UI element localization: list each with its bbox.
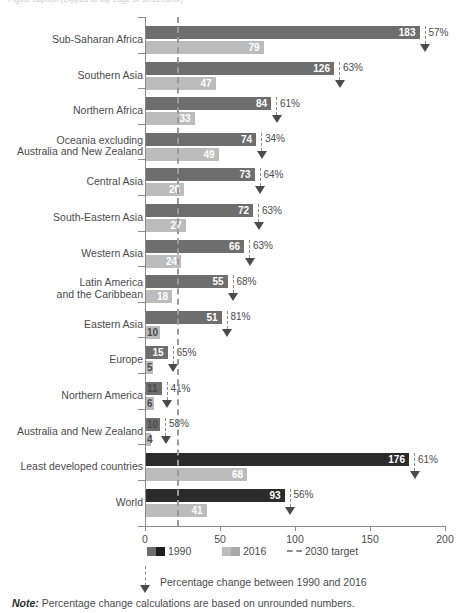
annotation-dashed-line — [414, 453, 415, 471]
category-label: Least developed countries — [20, 461, 143, 473]
percentage-change-label: 68% — [237, 276, 257, 288]
x-axis-tick — [220, 526, 221, 531]
y-axis-line — [145, 17, 146, 526]
category-label: Northern Africa — [73, 105, 143, 117]
annotation-arrow-icon — [228, 293, 238, 301]
axis-tick-stub — [138, 195, 145, 196]
annotation-arrow-icon — [257, 151, 267, 159]
legend-label-2016: 2016 — [243, 545, 266, 557]
annotation-arrow-icon — [410, 471, 420, 479]
bar-value-2016: 5 — [147, 361, 153, 374]
target-line-2030 — [177, 17, 179, 526]
bar-value-1990: 93 — [259, 489, 281, 502]
bar-value-1990: 51 — [196, 311, 218, 324]
axis-tick-stub — [138, 231, 145, 232]
bar-value-1990: 55 — [202, 275, 224, 288]
legend-item-2030-target[interactable]: 2030 target — [287, 545, 358, 557]
legend-label-1990: 1990 — [168, 545, 191, 557]
x-axis-tick-label: 0 — [125, 533, 165, 545]
bar-value-2016: 24 — [155, 255, 177, 268]
x-axis-tick — [295, 526, 296, 531]
bar-value-2016: 47 — [190, 77, 212, 90]
axis-tick-stub — [138, 266, 145, 267]
annotation-dashed-line — [339, 62, 340, 80]
annotation-arrow-icon — [161, 436, 171, 444]
axis-tick-stub — [138, 302, 145, 303]
key-arrow-icon — [140, 585, 150, 593]
bar-value-2016: 41 — [181, 504, 203, 517]
annotation-arrow-icon — [335, 80, 345, 88]
axis-tick-stub — [138, 444, 145, 445]
x-axis-tick — [445, 526, 446, 531]
bar-1990 — [145, 26, 420, 39]
bar-1990 — [145, 453, 409, 466]
annotation-arrow-icon — [222, 329, 232, 337]
axis-tick-stub — [138, 337, 145, 338]
annotation-dashed-line — [276, 97, 277, 115]
x-axis-tick-label: 150 — [350, 533, 390, 545]
percentage-change-label: 56% — [294, 489, 314, 501]
axis-tick-stub — [138, 526, 145, 527]
axis-tick-stub — [138, 88, 145, 89]
bar-value-1990: 11 — [147, 382, 158, 395]
bar-value-2016: 79 — [238, 41, 260, 54]
bar-chart: Figure caption (clipped at top edge of s… — [0, 0, 467, 613]
x-axis-tick-label: 200 — [425, 533, 465, 545]
bar-value-1990: 176 — [383, 453, 405, 466]
annotation-arrow-icon — [420, 44, 430, 52]
bar-value-2016: 4 — [147, 433, 153, 446]
bar-value-1990: 84 — [245, 97, 267, 110]
x-axis-tick — [370, 526, 371, 531]
category-label-line: and the Caribbean — [57, 289, 143, 301]
legend-item-2016[interactable]: 2016 — [222, 545, 266, 557]
x-axis-tick-label: 50 — [200, 533, 240, 545]
axis-tick-stub — [138, 409, 145, 410]
x-axis-tick — [145, 526, 146, 531]
percentage-change-label: 63% — [343, 62, 363, 74]
category-label: Western Asia — [81, 248, 143, 260]
bar-value-2016: 6 — [147, 397, 153, 410]
annotation-dashed-line — [261, 133, 262, 151]
annotation-dashed-line — [227, 311, 228, 329]
category-label: World — [116, 497, 143, 509]
bar-value-1990: 10 — [147, 418, 158, 431]
category-label-line: Australia and New Zealand — [17, 146, 143, 158]
category-label: Central Asia — [86, 176, 143, 188]
annotation-dashed-line — [260, 168, 261, 186]
legend-label-2030-target: 2030 target — [305, 545, 358, 557]
percentage-change-label: 63% — [262, 205, 282, 217]
annotation-arrow-icon — [255, 186, 265, 194]
percentage-change-label: 81% — [231, 311, 251, 323]
category-label: Northern America — [61, 390, 143, 402]
category-label: Europe — [109, 354, 143, 366]
percentage-change-label: 41% — [171, 383, 191, 395]
category-label: Australia and New Zealand — [17, 426, 143, 438]
legend-item-1990[interactable]: 1990 — [147, 545, 191, 557]
category-label: Oceania excludingAustralia and New Zeala… — [17, 135, 143, 158]
axis-tick-stub — [138, 124, 145, 125]
axis-tick-stub — [138, 53, 145, 54]
bar-value-2016: 33 — [169, 112, 191, 125]
bar-value-2016: 18 — [146, 290, 168, 303]
annotation-arrow-icon — [245, 258, 255, 266]
percentage-change-label: 58% — [169, 418, 189, 430]
axis-tick-stub — [138, 480, 145, 481]
percentage-change-label: 65% — [177, 347, 197, 359]
bar-1990 — [145, 62, 334, 75]
category-label: Eastern Asia — [84, 319, 143, 331]
annotation-dashed-line — [165, 418, 166, 436]
category-label: South-Eastern Asia — [53, 212, 143, 224]
bar-value-1990: 73 — [229, 168, 251, 181]
axis-tick-stub — [138, 373, 145, 374]
legend-swatch-2016-mid — [231, 547, 240, 556]
key-dashed-line — [145, 566, 146, 586]
chart-legend: 1990 2016 2030 target — [0, 544, 467, 562]
percentage-change-label: 64% — [264, 169, 284, 181]
axis-tick-stub — [138, 17, 145, 18]
annotation-arrow-icon — [285, 507, 295, 515]
category-label: Southern Asia — [78, 70, 143, 82]
plot-area: Sub-Saharan Africa1837957%Southern Asia1… — [0, 14, 467, 519]
key-label: Percentage change between 1990 and 2016 — [160, 576, 367, 588]
bar-value-1990: 66 — [218, 240, 240, 253]
legend-swatch-dashed-line — [287, 550, 302, 552]
